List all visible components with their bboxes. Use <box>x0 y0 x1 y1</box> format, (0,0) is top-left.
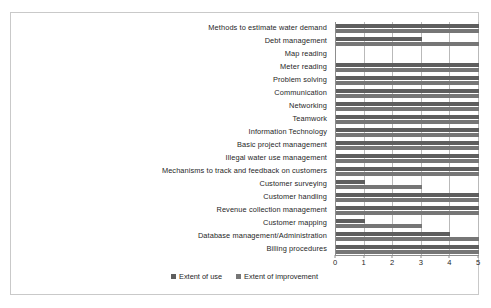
bar-extent-of-use <box>336 89 479 93</box>
bar-row <box>336 87 479 100</box>
bar-row <box>336 113 479 126</box>
bar-extent-of-use <box>336 206 479 210</box>
x-tick-label: 5 <box>476 258 480 268</box>
bar-extent-of-improvement <box>336 42 479 46</box>
category-label: Customer handling <box>263 193 327 201</box>
bar-extent-of-use <box>336 37 422 41</box>
category-label: Debt management <box>265 37 327 45</box>
category-axis-labels: Methods to estimate water demandDebt man… <box>11 22 331 256</box>
bar-extent-of-use <box>336 128 479 132</box>
bar-row <box>336 152 479 165</box>
bar-row <box>336 139 479 152</box>
bar-row <box>336 22 479 35</box>
x-tick-label: 0 <box>333 258 337 268</box>
bar-row <box>336 100 479 113</box>
bar-extent-of-use <box>336 219 365 223</box>
bar-extent-of-use <box>336 232 450 236</box>
bar-extent-of-use <box>336 141 479 145</box>
category-label: Information Technology <box>249 128 327 136</box>
legend-item[interactable]: Extent of use <box>171 272 222 281</box>
bar-extent-of-improvement <box>336 172 479 176</box>
category-label: Teamwork <box>293 115 327 123</box>
category-label: Communication <box>274 89 327 97</box>
bar-row <box>336 178 479 191</box>
bar-extent-of-use <box>336 180 365 184</box>
legend-swatch-icon <box>171 274 176 279</box>
category-axis-line <box>335 255 479 256</box>
bar-row <box>336 74 479 87</box>
bar-row <box>336 230 479 243</box>
bar-extent-of-use <box>336 24 479 28</box>
plot-area <box>335 22 479 256</box>
category-label: Billing procedures <box>266 245 327 253</box>
category-label: Problem solving <box>273 76 327 84</box>
bar-extent-of-improvement <box>336 29 479 33</box>
x-tick-label: 1 <box>361 258 365 268</box>
category-label: Basic project management <box>237 141 327 149</box>
bar-row <box>336 48 479 61</box>
category-label: Database management/Administration <box>198 232 327 240</box>
chart-legend: Extent of useExtent of improvement <box>11 272 478 281</box>
bar-row <box>336 35 479 48</box>
chart-figure: Methods to estimate water demandDebt man… <box>10 12 479 295</box>
legend-label: Extent of use <box>179 272 222 281</box>
category-label: Networking <box>289 102 327 110</box>
bar-row <box>336 191 479 204</box>
legend-label: Extent of improvement <box>244 272 318 281</box>
bar-row <box>336 165 479 178</box>
bar-extent-of-improvement <box>336 250 479 254</box>
bar-row <box>336 217 479 230</box>
bar-extent-of-improvement <box>336 81 479 85</box>
x-tick-label: 4 <box>447 258 451 268</box>
bar-extent-of-use <box>336 193 479 197</box>
legend-swatch-icon <box>236 274 241 279</box>
category-label: Meter reading <box>280 63 327 71</box>
bar-extent-of-improvement <box>336 211 479 215</box>
category-label: Map reading <box>285 50 327 58</box>
bar-extent-of-improvement <box>336 159 479 163</box>
bar-extent-of-improvement <box>336 107 479 111</box>
bar-extent-of-use <box>336 76 479 80</box>
x-tick-label: 3 <box>419 258 423 268</box>
category-label: Illegal water use management <box>226 154 327 162</box>
category-label: Customer mapping <box>263 219 327 227</box>
bar-extent-of-improvement <box>336 146 479 150</box>
bar-extent-of-improvement <box>336 224 422 228</box>
category-label: Revenue collection management <box>216 206 327 214</box>
category-label: Mechanisms to track and feedback on cust… <box>162 167 327 175</box>
bar-extent-of-use <box>336 245 479 249</box>
bar-extent-of-use <box>336 154 479 158</box>
category-label: Methods to estimate water demand <box>208 24 327 32</box>
bar-row <box>336 61 479 74</box>
bar-extent-of-improvement <box>336 120 479 124</box>
x-tick-label: 2 <box>390 258 394 268</box>
legend-item[interactable]: Extent of improvement <box>236 272 318 281</box>
bar-extent-of-improvement <box>336 133 479 137</box>
bar-row <box>336 126 479 139</box>
value-axis-tick-labels: 012345 <box>335 258 481 270</box>
bar-row <box>336 204 479 217</box>
bar-extent-of-improvement <box>336 68 479 72</box>
bar-extent-of-improvement <box>336 198 479 202</box>
bar-extent-of-use <box>336 115 479 119</box>
category-label: Customer surveying <box>259 180 327 188</box>
bar-extent-of-use <box>336 102 479 106</box>
bar-extent-of-improvement <box>336 185 422 189</box>
bar-extent-of-improvement <box>336 94 479 98</box>
bar-rows <box>336 22 479 255</box>
bar-extent-of-use <box>336 167 479 171</box>
bar-extent-of-use <box>336 63 479 67</box>
bar-extent-of-improvement <box>336 237 479 241</box>
